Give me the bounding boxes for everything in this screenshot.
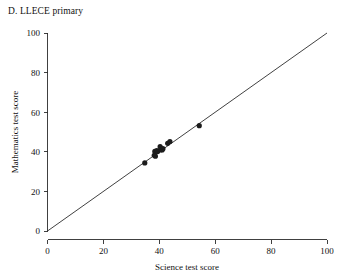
x-axis-title: Science test score	[155, 262, 219, 272]
y-tick-label: 40	[31, 147, 41, 157]
x-tick-labels: 0 20 40 60 80 100	[45, 246, 334, 256]
y-tick-label: 100	[27, 28, 41, 38]
data-points-group	[142, 123, 202, 165]
data-point	[160, 146, 165, 151]
data-point	[167, 139, 172, 144]
x-tick-label: 20	[99, 246, 109, 256]
x-tick-label: 100	[320, 246, 334, 256]
x-tick-label: 60	[211, 246, 221, 256]
y-tick-label: 80	[31, 68, 41, 78]
y-tick-labels: 100 80 60 40 20 0	[27, 28, 41, 236]
y-tick-label: 0	[36, 226, 41, 236]
y-axis-title: Mathematics test score	[10, 91, 20, 173]
figure-panel: D. LLECE primary 100 80 60	[0, 0, 344, 276]
x-tick-label: 80	[267, 246, 277, 256]
y-tick-label: 20	[31, 187, 41, 197]
data-point	[142, 160, 147, 165]
y-tick-marks	[44, 33, 48, 231]
y-tick-label: 60	[31, 108, 41, 118]
identity-reference-line	[48, 33, 328, 231]
x-tick-label: 40	[155, 246, 165, 256]
x-tick-label: 0	[45, 246, 50, 256]
scatter-plot: 100 80 60 40 20 0 0 20 40 60 80 100 Scie…	[0, 0, 344, 276]
data-point	[197, 123, 202, 128]
x-tick-marks	[48, 240, 328, 244]
data-point	[153, 154, 158, 159]
